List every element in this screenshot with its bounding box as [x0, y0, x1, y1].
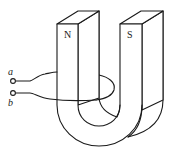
north-pole-label: N [64, 29, 71, 40]
lead-wire-a [16, 72, 57, 81]
terminal-a [11, 79, 16, 84]
terminal-b-label: b [8, 97, 13, 108]
terminal-b [11, 91, 16, 96]
magnet-inner-back-curve [99, 11, 117, 117]
south-pole-label: S [127, 29, 133, 40]
s-pole-side-face [142, 11, 163, 110]
terminal-a-label: a [8, 66, 13, 77]
magnet-coil-diagram: N S a b [0, 0, 170, 148]
n-pole-side-face [78, 11, 99, 105]
